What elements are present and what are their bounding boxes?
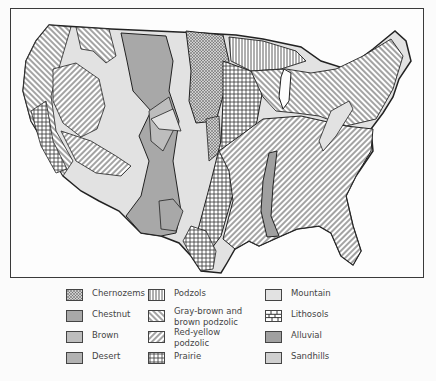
legend-label: Prairie	[174, 351, 254, 362]
legend-label: Sandhills	[291, 351, 371, 362]
legend-item-podzols: Podzols	[148, 288, 254, 301]
desert-swatch-icon	[66, 352, 83, 364]
legend-item-lithosols: Lithosols	[265, 309, 371, 322]
brown-swatch-icon	[66, 331, 83, 343]
legend-item-prairie: Prairie	[148, 351, 254, 364]
podzols-swatch-icon	[148, 289, 165, 301]
legend-label: Red-yellow podzolic	[174, 327, 224, 349]
gray-brown-podzolic-swatch-icon	[148, 310, 165, 322]
chestnut-swatch-icon	[66, 310, 83, 322]
prairie-swatch-icon	[148, 352, 165, 364]
chernozems-swatch-icon	[66, 289, 83, 301]
legend-item-alluvial: Alluvial	[265, 330, 371, 343]
legend-item-sandhills: Sandhills	[265, 351, 371, 364]
sandhills-swatch-icon	[265, 352, 282, 364]
legend: Chernozems Chestnut Brown Desert Podzols…	[0, 282, 436, 381]
legend-item-gray-brown-podzolic: Gray-brown and brown podzolic	[148, 306, 254, 328]
soil-map	[11, 9, 425, 279]
legend-label: Gray-brown and brown podzolic	[174, 306, 254, 328]
legend-item-red-yellow-podzolic: Red-yellow podzolic	[148, 327, 224, 349]
legend-label: Mountain	[291, 288, 371, 299]
red-yellow-podzolic-swatch-icon	[148, 331, 165, 343]
soil-map-frame	[10, 8, 424, 278]
legend-label: Lithosols	[291, 309, 371, 320]
alluvial-swatch-icon	[265, 331, 282, 343]
legend-label: Podzols	[174, 288, 254, 299]
legend-item-mountain: Mountain	[265, 288, 371, 301]
lithosols-swatch-icon	[265, 310, 282, 322]
mountain-swatch-icon	[265, 289, 282, 301]
legend-label: Alluvial	[291, 330, 371, 341]
